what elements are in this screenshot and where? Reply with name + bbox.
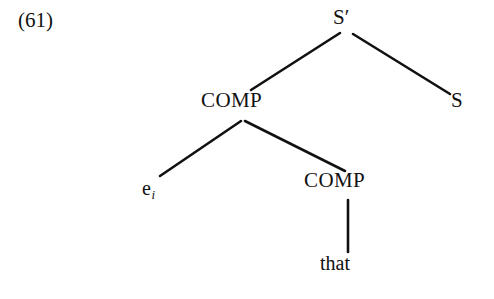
node-empty-category: ei <box>142 178 155 198</box>
empty-category-letter: e <box>142 177 151 199</box>
empty-category-index: i <box>151 187 155 202</box>
tree-branches <box>0 0 494 299</box>
node-terminal-that: that <box>320 253 350 273</box>
node-comp-lower: COMP <box>304 170 365 191</box>
node-comp-upper: COMP <box>201 90 262 111</box>
node-s-bar: S′ <box>333 7 349 28</box>
branch-sbar-to-s <box>353 34 450 94</box>
syntax-tree-figure: (61) S′ S COMP COMP ei that <box>0 0 494 299</box>
node-s: S <box>451 90 463 111</box>
branch-comp-to-comp <box>245 121 345 171</box>
branch-comp-to-empty-category <box>160 121 241 176</box>
branch-sbar-to-comp <box>251 33 340 90</box>
node-s-bar-letter: S <box>333 5 345 29</box>
prime-mark: ′ <box>345 5 350 29</box>
